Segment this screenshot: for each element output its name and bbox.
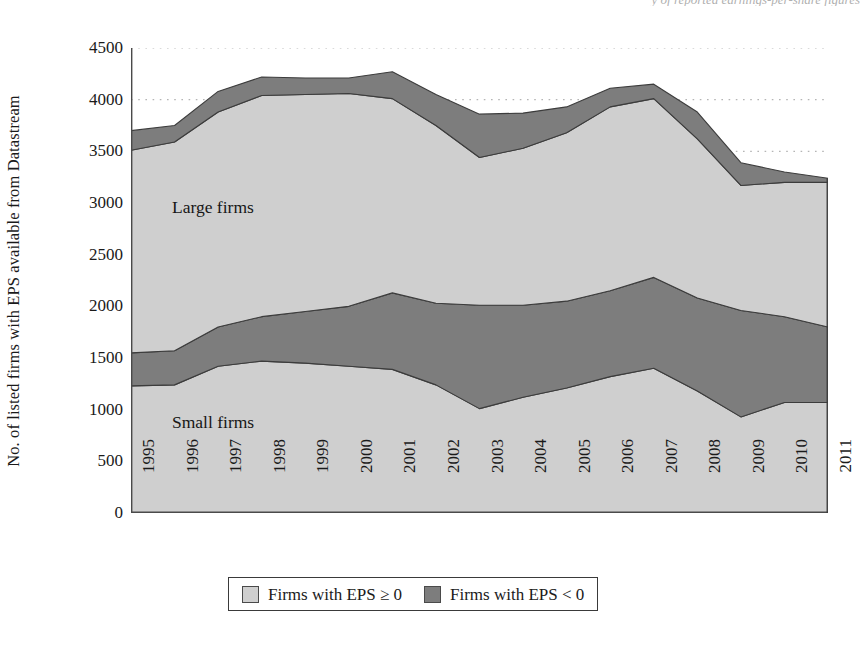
figure-container: y of reported earnings-per-share figures… [0,0,867,651]
legend-swatch-icon [424,586,441,603]
legend-item[interactable]: Firms with EPS < 0 [424,586,584,603]
legend-swatch-icon [242,586,259,603]
x-axis-tick-labels: 1995199619971998199920002001200220032004… [0,0,867,651]
x-tick-label: 2010 [793,439,810,519]
legend-label: Firms with EPS < 0 [450,586,584,603]
legend-item[interactable]: Firms with EPS ≥ 0 [242,586,402,603]
x-tick-label: 2000 [358,439,375,519]
x-tick-label: 2004 [532,439,549,519]
chart-legend: Firms with EPS ≥ 0Firms with EPS < 0 [228,577,598,611]
x-tick-label: 2005 [576,439,593,519]
x-tick-label: 2002 [445,439,462,519]
x-tick-label: 1995 [140,439,157,519]
x-tick-label: 2007 [663,439,680,519]
legend-label: Firms with EPS ≥ 0 [268,586,402,603]
x-tick-label: 1999 [314,439,331,519]
x-tick-label: 2003 [489,439,506,519]
x-tick-label: 1996 [184,439,201,519]
x-tick-label: 2009 [750,439,767,519]
x-tick-label: 2008 [706,439,723,519]
x-tick-label: 2001 [401,439,418,519]
x-tick-label: 2006 [619,439,636,519]
x-tick-label: 2011 [837,439,854,519]
x-tick-label: 1997 [227,439,244,519]
x-tick-label: 1998 [271,439,288,519]
